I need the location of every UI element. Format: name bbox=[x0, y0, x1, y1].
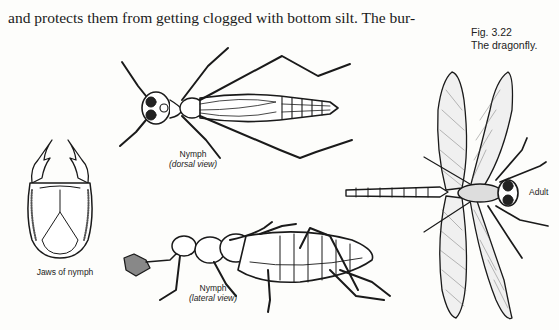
adult-dragonfly-drawing bbox=[346, 72, 548, 319]
nymph-lateral-drawing bbox=[124, 222, 390, 312]
label-nymph-lateral: Nymph (lateral view) bbox=[178, 283, 248, 303]
dragonfly-illustrations bbox=[0, 0, 559, 330]
jaws-of-nymph-drawing bbox=[28, 140, 92, 258]
nymph-dorsal-drawing bbox=[120, 48, 352, 158]
label-adult: Adult bbox=[529, 187, 559, 197]
label-nymph-dorsal: Nymph (dorsal view) bbox=[158, 149, 228, 169]
label-jaws: Jaws of nymph bbox=[20, 267, 110, 277]
